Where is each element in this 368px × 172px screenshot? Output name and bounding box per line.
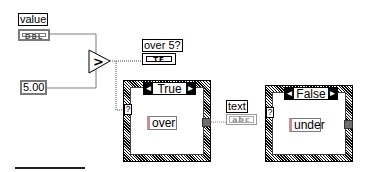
decrement-arrow-icon[interactable]: ◄ bbox=[285, 88, 294, 100]
case-false-selector[interactable]: ◄ False ► bbox=[284, 87, 338, 100]
dbl-type-badge: DBL bbox=[22, 33, 46, 37]
increment-arrow-icon[interactable]: ► bbox=[328, 88, 337, 100]
comparator-symbol: > bbox=[93, 54, 104, 69]
text-label: text bbox=[226, 100, 248, 113]
decrement-arrow-icon[interactable]: ◄ bbox=[144, 83, 153, 95]
case-true-selector-terminal[interactable]: ? bbox=[124, 104, 132, 115]
abc-type-badge: abc bbox=[229, 116, 254, 123]
increment-arrow-icon[interactable]: ► bbox=[186, 83, 195, 95]
tf-type-badge: TF bbox=[146, 56, 172, 62]
value-control-terminal[interactable]: DBL bbox=[18, 29, 50, 41]
under-string-constant[interactable]: under bbox=[289, 118, 321, 132]
case-true-selector[interactable]: ◄ True ► bbox=[143, 82, 196, 95]
over5-label: over 5? bbox=[142, 39, 183, 52]
case-true-label: True bbox=[153, 83, 186, 95]
over5-indicator-terminal[interactable]: TF bbox=[142, 53, 176, 65]
case-true-output-tunnel[interactable] bbox=[202, 118, 211, 127]
value-label: value bbox=[18, 13, 48, 26]
threshold-constant[interactable]: 5.00 bbox=[20, 80, 47, 95]
case-false-label: False bbox=[294, 88, 328, 100]
case-false-selector-terminal[interactable]: ? bbox=[266, 107, 274, 118]
case-false-output-tunnel[interactable] bbox=[344, 120, 353, 129]
text-indicator-terminal[interactable]: abc bbox=[226, 114, 257, 125]
over-string-constant[interactable]: over bbox=[147, 116, 177, 130]
